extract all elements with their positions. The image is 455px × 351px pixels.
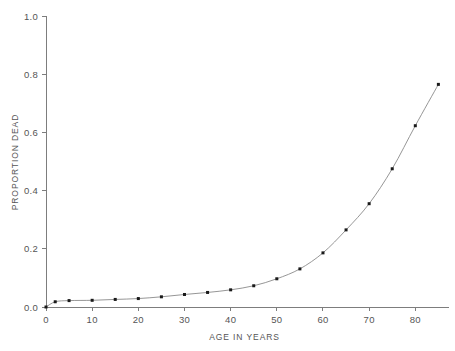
y-tick-label: 0.0 <box>24 302 38 313</box>
y-tick-label: 0.8 <box>24 69 38 80</box>
x-tick-label: 40 <box>225 314 236 325</box>
x-axis: 01020304050607080 <box>43 307 449 325</box>
x-tick-label: 30 <box>179 314 190 325</box>
x-tick-label: 50 <box>271 314 282 325</box>
x-tick-label: 10 <box>87 314 98 325</box>
x-tick-label: 80 <box>410 314 421 325</box>
data-point-marker <box>137 297 140 300</box>
data-series-group <box>45 83 440 309</box>
data-point-marker <box>275 277 278 280</box>
data-point-marker <box>114 298 117 301</box>
data-point-marker <box>91 299 94 302</box>
x-axis-ticks <box>46 307 415 311</box>
y-axis-title: PROPORTION DEAD <box>10 114 20 210</box>
data-point-marker <box>368 202 371 205</box>
x-axis-tick-labels: 01020304050607080 <box>43 314 421 325</box>
y-axis: 0.00.20.40.60.81.0 <box>24 11 46 313</box>
y-axis-ticks <box>42 16 46 307</box>
y-tick-label: 0.2 <box>24 243 38 254</box>
y-tick-label: 1.0 <box>24 11 38 22</box>
y-tick-label: 0.6 <box>24 127 38 138</box>
data-point-marker <box>45 306 48 309</box>
data-point-marker <box>229 288 232 291</box>
data-point-marker <box>160 295 163 298</box>
chart-container: 0.00.20.40.60.81.0 01020304050607080 AGE… <box>0 0 455 351</box>
data-point-marker <box>183 293 186 296</box>
series-line-proportion-dead <box>46 84 438 307</box>
x-axis-title: AGE IN YEARS <box>209 332 280 342</box>
x-tick-label: 60 <box>317 314 328 325</box>
data-point-marker <box>298 267 301 270</box>
data-point-marker <box>345 228 348 231</box>
data-point-marker <box>437 83 440 86</box>
series-markers-proportion-dead <box>45 83 440 309</box>
x-tick-label: 70 <box>364 314 375 325</box>
data-point-marker <box>321 251 324 254</box>
data-point-marker <box>206 291 209 294</box>
data-point-marker <box>391 167 394 170</box>
line-chart-plot: 0.00.20.40.60.81.0 01020304050607080 AGE… <box>0 0 455 351</box>
y-tick-label: 0.4 <box>24 185 38 196</box>
data-point-marker <box>68 299 71 302</box>
data-point-marker <box>54 300 57 303</box>
data-point-marker <box>414 124 417 127</box>
data-point-marker <box>252 284 255 287</box>
x-tick-label: 0 <box>43 314 49 325</box>
y-axis-tick-labels: 0.00.20.40.60.81.0 <box>24 11 38 313</box>
x-tick-label: 20 <box>133 314 144 325</box>
